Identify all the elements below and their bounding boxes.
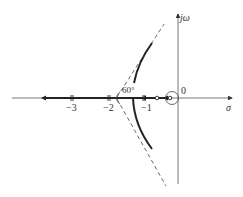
tick-label-neg1: −1 (141, 103, 152, 113)
arrow-left-icon (41, 96, 46, 101)
root-locus-diagram (0, 0, 243, 197)
tick-label-neg2: −2 (103, 103, 114, 113)
imag-axis-label: jω (180, 13, 190, 23)
real-axis-label: σ (226, 103, 231, 113)
zero-marker (155, 96, 159, 100)
tick-label-neg3: −3 (66, 103, 77, 113)
origin-label: 0 (181, 86, 186, 96)
locus-branch-upper (134, 43, 152, 83)
zero-marker (168, 96, 172, 100)
angle-label: 60° (122, 86, 135, 95)
